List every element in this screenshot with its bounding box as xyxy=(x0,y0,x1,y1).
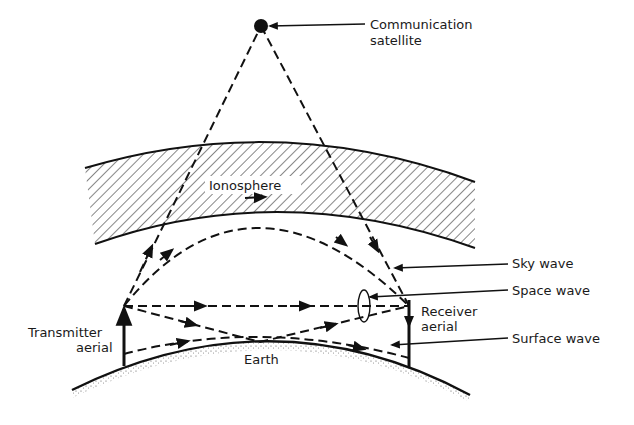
space-wave-label: Space wave xyxy=(512,283,590,298)
receiver-label-2: aerial xyxy=(421,319,458,334)
receiver-label-1: Receiver xyxy=(421,304,478,319)
sky-wave-label: Sky wave xyxy=(512,256,573,271)
diagram-canvas: Communication satellite Ionosphere Sky w… xyxy=(0,0,634,425)
ionosphere-band xyxy=(85,142,475,248)
ionosphere-label: Ionosphere xyxy=(209,178,281,193)
transmitter-label-2: aerial xyxy=(76,340,113,355)
satellite-label-2: satellite xyxy=(370,33,422,48)
transmitter-label-1: Transmitter xyxy=(27,325,103,340)
satellite-label-1: Communication xyxy=(370,17,472,32)
earth-label: Earth xyxy=(244,352,279,367)
surface-wave-label: Surface wave xyxy=(512,331,600,346)
propagation-diagram: Communication satellite Ionosphere Sky w… xyxy=(0,0,634,425)
